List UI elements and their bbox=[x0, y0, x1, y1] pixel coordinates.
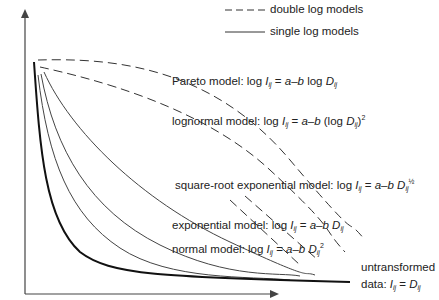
label-lognormal-model: lognormal model: log Iij = a–b (log Dij)… bbox=[172, 114, 365, 128]
label-sqrt-exponential-model: square-root exponential model: log Iij =… bbox=[175, 178, 414, 192]
label-normal-model: normal model: log Iij = a–b Dij2 bbox=[172, 242, 324, 256]
label-pareto-model: Pareto model: log Iij = a–b log Dij bbox=[172, 75, 337, 88]
legend-double-log: double log models bbox=[270, 3, 363, 15]
label-untransformed-line1: untransformed bbox=[361, 261, 435, 273]
label-untransformed-line2: data: Iij = Dij bbox=[361, 278, 421, 291]
legend-single-log: single log models bbox=[270, 25, 359, 37]
label-exponential-model: exponential model: log Iij = a–b Dij bbox=[172, 219, 344, 232]
